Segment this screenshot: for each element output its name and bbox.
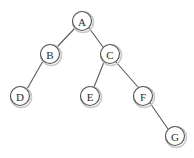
- tree-edges-layer: [27, 28, 168, 129]
- node-label: F: [140, 91, 146, 103]
- tree-node-g[interactable]: G: [166, 127, 187, 148]
- node-label: G: [171, 131, 179, 143]
- node-label: B: [46, 49, 53, 61]
- tree-edge-b-d: [27, 61, 43, 89]
- binary-tree-graphic: . . . . . . . . ABCDEFG: [0, 0, 194, 158]
- node-label: D: [16, 91, 24, 103]
- tree-edge-c-f: [116, 62, 138, 87]
- tree-node-c[interactable]: C: [101, 45, 122, 66]
- tree-diagram-canvas: . . . . . . . . ABCDEFG: [0, 0, 194, 158]
- node-label: A: [78, 16, 86, 28]
- tree-edge-a-c: [89, 28, 103, 47]
- tree-node-a[interactable]: A: [73, 12, 94, 33]
- tree-edge-c-e: [94, 62, 104, 87]
- tree-node-d[interactable]: D: [11, 87, 32, 108]
- tree-nodes-layer: ABCDEFG: [11, 12, 187, 148]
- tree-node-f[interactable]: F: [134, 87, 155, 108]
- tree-node-e[interactable]: E: [81, 87, 102, 108]
- node-label: E: [87, 91, 94, 103]
- tree-node-b[interactable]: B: [41, 45, 62, 66]
- node-label: C: [106, 49, 113, 61]
- tree-edge-f-g: [150, 103, 168, 129]
- tree-edge-a-b: [57, 28, 75, 47]
